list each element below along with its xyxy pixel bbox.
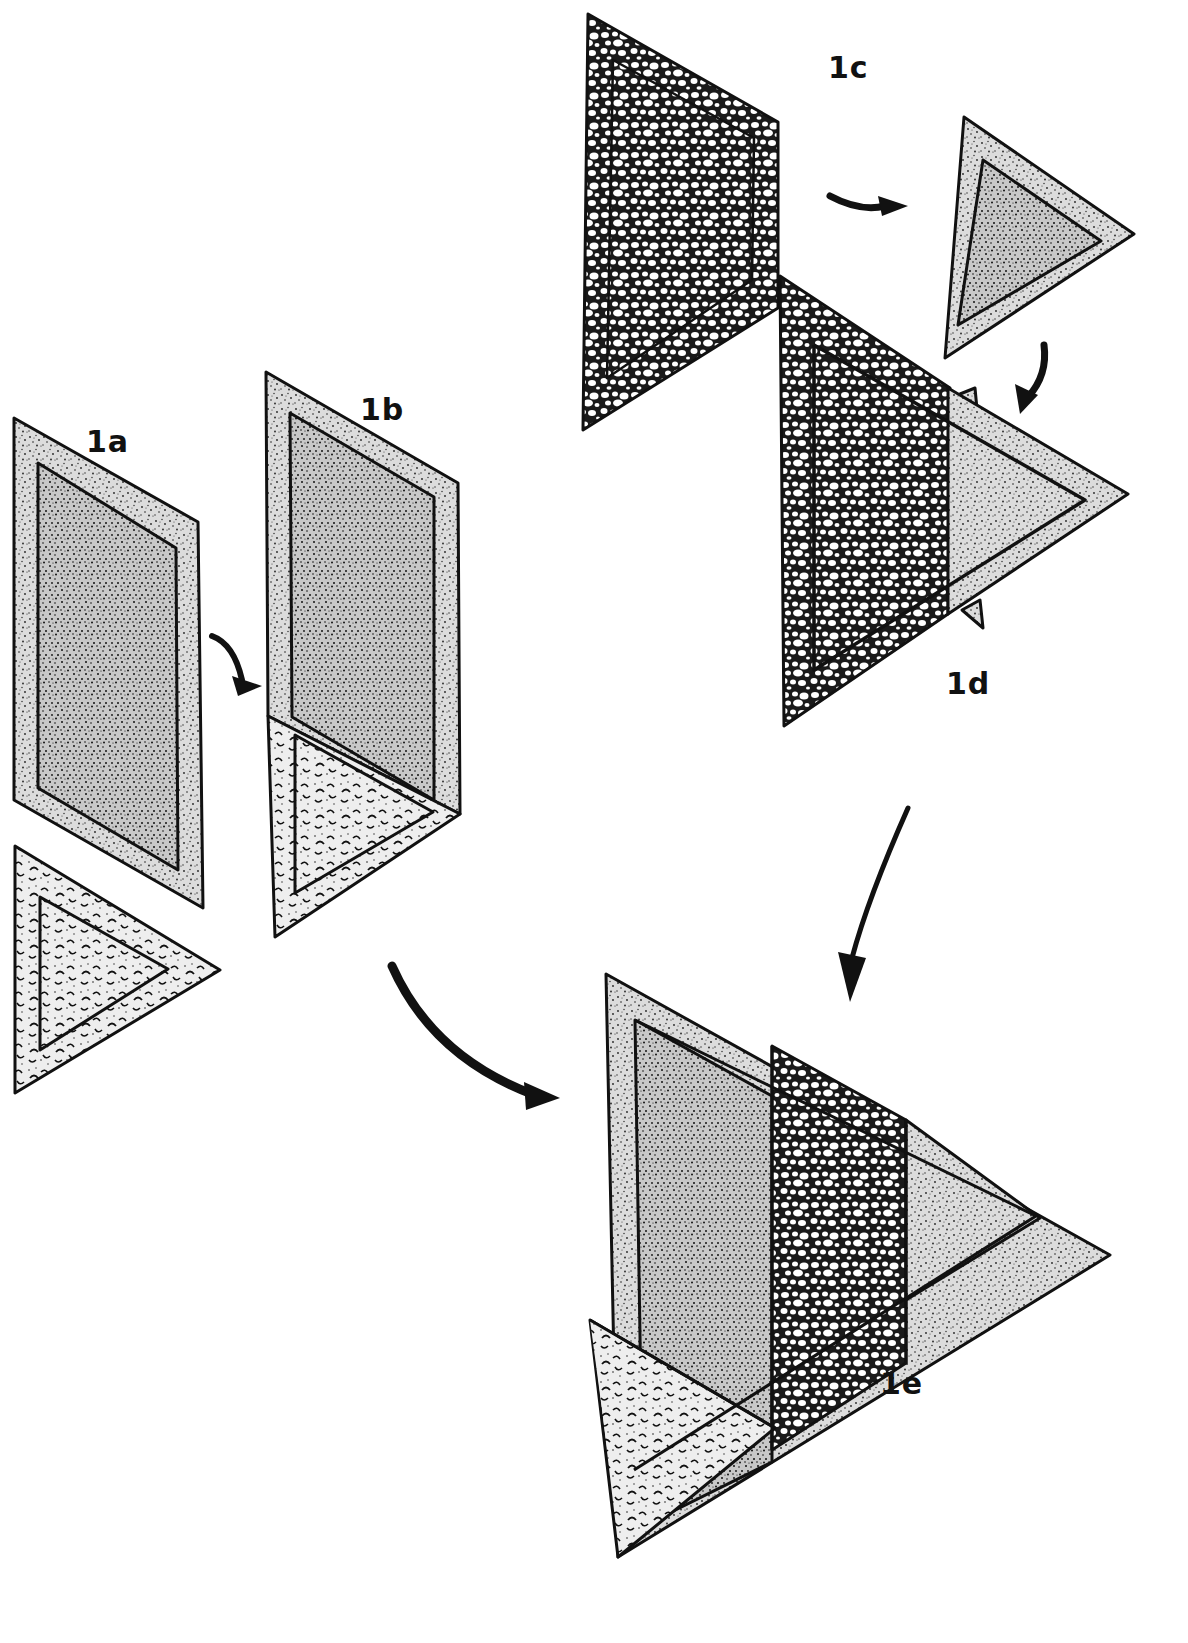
- arrow-triangle-to-1d-icon: [1015, 345, 1045, 414]
- step-label-1b: 1b: [360, 392, 404, 427]
- piece-1c-pebble: [583, 14, 778, 430]
- step-label-1e: 1e: [880, 1366, 923, 1401]
- arrow-1c-to-triangle-icon: [830, 196, 908, 216]
- piece-1b: [266, 372, 460, 937]
- arrow-1a-to-1b-icon: [212, 636, 262, 696]
- diagram-svg: [0, 0, 1188, 1643]
- step-label-1c: 1c: [828, 50, 869, 85]
- step-label-1d: 1d: [946, 666, 990, 701]
- piece-1c-stipple-triangle: [945, 117, 1134, 358]
- diagram-canvas: 1a 1b 1c 1d 1e: [0, 0, 1188, 1643]
- piece-1a-rectangle: [14, 418, 203, 908]
- step-label-1a: 1a: [86, 424, 129, 459]
- piece-1e: [590, 974, 1110, 1557]
- arrow-1d-to-1e-icon: [838, 808, 908, 1002]
- arrow-1b-to-1e-icon: [392, 966, 560, 1110]
